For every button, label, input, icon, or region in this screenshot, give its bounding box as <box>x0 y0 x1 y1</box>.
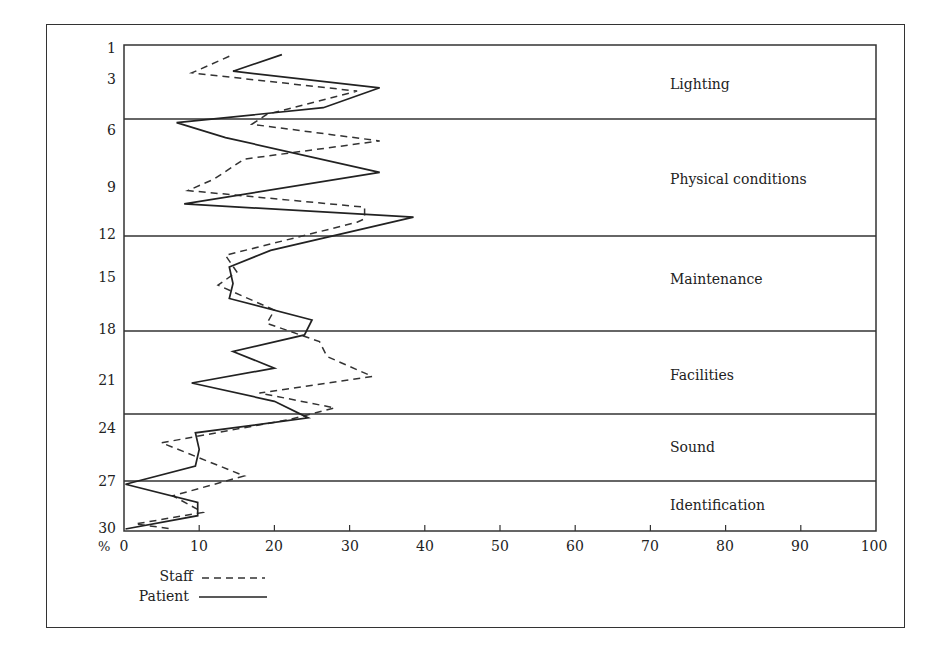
x-tick-label: 60 <box>555 539 595 553</box>
x-tick-label: 10 <box>179 539 219 553</box>
y-tick-label: 21 <box>76 373 116 387</box>
y-tick-label: 15 <box>76 270 116 284</box>
category-label-identification: Identification <box>670 497 765 513</box>
category-label-physical-conditions: Physical conditions <box>670 171 807 187</box>
plot-area <box>124 45 876 531</box>
category-label-maintenance: Maintenance <box>670 271 763 287</box>
x-tick-label: 0 <box>104 539 144 553</box>
y-tick-label: 1 <box>76 41 116 55</box>
x-tick-label: 50 <box>480 539 520 553</box>
category-label-facilities: Facilities <box>670 367 734 383</box>
y-tick-label: 30 <box>76 521 116 535</box>
y-tick-label: 27 <box>76 474 116 488</box>
x-tick-label: 70 <box>630 539 670 553</box>
y-tick-label: 24 <box>76 421 116 435</box>
series-patient-line <box>126 55 414 529</box>
x-tick-label: 80 <box>705 539 745 553</box>
category-label-sound: Sound <box>670 439 715 455</box>
y-tick-label: 18 <box>76 322 116 336</box>
y-tick-label: 3 <box>76 72 116 86</box>
y-tick-label: 6 <box>76 123 116 137</box>
x-tick-label: 30 <box>330 539 370 553</box>
category-label-lighting: Lighting <box>670 76 730 92</box>
y-tick-label: 9 <box>76 180 116 194</box>
x-tick-label: 20 <box>254 539 294 553</box>
x-tick-label: 40 <box>405 539 445 553</box>
chart-plot <box>0 0 937 659</box>
x-tick-label: 100 <box>854 539 894 553</box>
x-tick-label: 90 <box>780 539 820 553</box>
y-tick-label: 12 <box>76 227 116 241</box>
legend-staff-label: Staff <box>113 568 193 584</box>
x-axis-ticks <box>199 525 801 531</box>
series-staff-line <box>135 56 379 529</box>
legend-patient-label: Patient <box>109 588 189 604</box>
